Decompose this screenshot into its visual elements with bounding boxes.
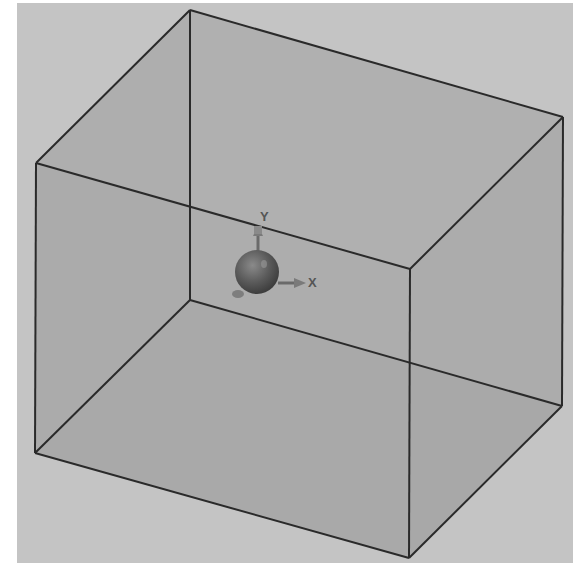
origin-sphere[interactable] [235,250,279,294]
3d-viewport[interactable]: Y X [0,0,585,565]
z-axis-stub-icon [232,290,244,298]
edge-vertical-back-right [562,117,563,406]
edge-vertical-front-right [409,269,410,558]
edge-vertical-front-left [35,163,36,453]
x-axis-label: X [308,275,317,290]
sphere-highlight [261,260,267,268]
scene-canvas[interactable]: Y X [0,0,585,565]
y-axis-label: Y [260,209,269,224]
y-axis-handle[interactable] [254,226,262,234]
